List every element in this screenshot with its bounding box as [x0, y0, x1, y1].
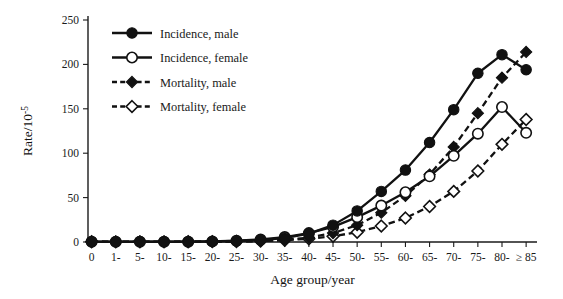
y-tick-label: 0 [73, 236, 79, 248]
data-point-marker [111, 237, 121, 247]
x-tick-label: 5- [135, 251, 145, 263]
x-tick-label: 80- [494, 251, 510, 263]
x-axis: 01-5-10-15-20-25-30-35-40-45-50-55-60-65… [88, 242, 537, 263]
data-point-marker [376, 186, 386, 196]
data-point-marker [449, 151, 459, 161]
data-point-marker [473, 68, 483, 78]
x-tick-label: 45- [325, 251, 341, 263]
data-point-marker [400, 165, 410, 175]
y-tick-label: 250 [62, 14, 80, 26]
x-tick-label: 60- [398, 251, 414, 263]
y-tick-label: 100 [62, 147, 80, 159]
y-axis-title: Rate/10-5 [20, 106, 36, 156]
data-point-marker [159, 236, 169, 246]
legend-item-incidence-male[interactable]: Incidence, male [112, 27, 239, 41]
data-point-marker [126, 76, 137, 87]
legend-item-incidence-female[interactable]: Incidence, female [112, 51, 249, 65]
x-tick-label: 55- [374, 251, 390, 263]
x-tick-label: 50- [349, 251, 365, 263]
x-tick-label: 25- [229, 251, 245, 263]
data-point-marker [400, 212, 412, 224]
data-point-marker [126, 101, 138, 113]
x-tick-label: 1- [111, 251, 121, 263]
y-tick-label: 150 [62, 103, 80, 115]
x-tick-label: 70- [446, 251, 462, 263]
line-chart-svg: 050100150200250 01-5-10-15-20-25-30-35-4… [0, 0, 563, 299]
data-point-marker [424, 171, 434, 181]
x-tick-label: 20- [205, 251, 221, 263]
data-point-marker [472, 108, 483, 119]
data-point-marker [304, 228, 314, 238]
y-axis: 050100150200250 [62, 14, 88, 248]
series-incidence-female [86, 102, 531, 247]
legend-item-mortality-female[interactable]: Mortality, female [112, 100, 246, 114]
data-point-marker [400, 187, 410, 197]
x-axis-title: Age group/year [270, 272, 355, 287]
x-tick-label: 35- [277, 251, 293, 263]
data-point-marker [449, 104, 459, 114]
legend-item-label: Mortality, male [160, 76, 237, 90]
data-point-marker [496, 72, 507, 83]
x-tick-label: 75- [470, 251, 486, 263]
x-tick-label: 0 [89, 251, 95, 263]
data-point-marker [207, 236, 217, 246]
data-point-marker [497, 102, 507, 112]
chart-container: 050100150200250 01-5-10-15-20-25-30-35-4… [0, 0, 563, 299]
x-tick-label: 30- [253, 251, 269, 263]
data-point-marker [255, 235, 265, 245]
data-point-marker [127, 28, 137, 38]
x-tick-label: 40- [301, 251, 317, 263]
legend-item-label: Mortality, female [160, 100, 246, 114]
data-point-marker [376, 200, 386, 210]
y-tick-label: 50 [68, 192, 80, 204]
legend-item-label: Incidence, female [160, 51, 249, 65]
x-tick-label: 65- [422, 251, 438, 263]
data-series-group [86, 46, 532, 247]
data-point-marker [135, 236, 145, 246]
data-point-marker [521, 65, 531, 75]
data-point-marker [127, 52, 137, 62]
data-point-marker [448, 186, 460, 198]
data-point-marker [231, 236, 241, 246]
chart-legend: Incidence, maleIncidence, femaleMortalit… [112, 27, 249, 115]
legend-item-label: Incidence, male [160, 27, 239, 41]
x-tick-label: ≥ 85 [516, 251, 537, 263]
series-incidence-male [86, 49, 531, 247]
data-point-marker [352, 206, 362, 216]
data-point-marker [521, 128, 531, 138]
legend-item-mortality-male[interactable]: Mortality, male [112, 76, 237, 90]
data-point-marker [497, 49, 507, 59]
x-tick-label: 10- [156, 251, 172, 263]
data-point-marker [328, 220, 338, 230]
data-point-marker [280, 233, 290, 243]
data-point-marker [424, 201, 436, 213]
x-tick-label: 15- [181, 251, 197, 263]
data-point-marker [375, 220, 387, 232]
data-point-marker [86, 236, 96, 246]
data-point-marker [473, 128, 483, 138]
data-point-marker [183, 236, 193, 246]
data-point-marker [424, 137, 434, 147]
y-tick-label: 200 [62, 58, 80, 70]
